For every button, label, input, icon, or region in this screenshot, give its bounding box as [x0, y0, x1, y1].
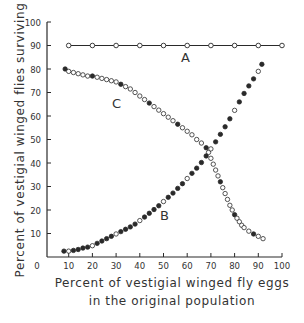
data-point [90, 74, 94, 78]
data-point [230, 208, 234, 212]
data-point [213, 140, 217, 144]
x-tick-label: 20 [87, 260, 98, 271]
data-point [180, 126, 184, 130]
data-point [119, 82, 123, 86]
y-tick-label: 100 [25, 17, 41, 28]
data-point [152, 207, 156, 211]
data-point [180, 181, 184, 185]
data-point [104, 236, 108, 240]
data-point [90, 43, 95, 48]
data-point [71, 70, 75, 74]
data-point [138, 43, 143, 48]
y-tick-label: 40 [30, 158, 41, 169]
data-point [228, 203, 232, 207]
data-point [133, 222, 137, 226]
data-point [81, 73, 85, 77]
data-point [211, 162, 215, 166]
x-tick-label: 50 [158, 260, 169, 271]
y-tick-label: 90 [30, 40, 41, 51]
data-point [166, 195, 170, 199]
data-point [190, 133, 194, 137]
data-point [142, 215, 146, 219]
x-tick-label: 0 [34, 260, 39, 271]
data-point [171, 119, 175, 123]
data-point [199, 141, 203, 145]
data-point [123, 227, 127, 231]
data-point [232, 108, 236, 112]
data-point [204, 154, 208, 158]
data-point [123, 84, 127, 88]
data-point [104, 77, 108, 81]
data-point [216, 174, 220, 178]
data-point [176, 122, 180, 126]
x-tick-label: 100 [274, 260, 290, 271]
data-point [237, 100, 241, 104]
data-point [147, 101, 151, 105]
data-point [247, 229, 251, 233]
data-point [166, 115, 170, 119]
data-point [128, 87, 132, 91]
data-point [218, 180, 222, 184]
data-point [232, 43, 237, 48]
y-tick-label: 60 [30, 111, 41, 122]
x-tick-label: 70 [205, 260, 216, 271]
data-point [251, 232, 255, 236]
data-point [225, 197, 229, 201]
data-point [90, 244, 94, 248]
label-b: B [160, 208, 169, 223]
data-point [256, 43, 261, 48]
data-point [128, 225, 132, 229]
label-a: A [181, 50, 190, 65]
data-point [221, 185, 225, 189]
data-point [223, 191, 227, 195]
series-a [66, 43, 284, 48]
data-point [71, 248, 75, 252]
data-point [147, 211, 151, 215]
data-point [204, 146, 208, 150]
data-point [67, 69, 71, 73]
y-tick-label: 10 [30, 228, 41, 239]
data-point [247, 84, 251, 88]
x-tick-label: 60 [182, 260, 193, 271]
data-point [185, 176, 189, 180]
data-point [256, 234, 260, 238]
data-point [190, 171, 194, 175]
data-point [100, 76, 104, 80]
y-tick-label: 30 [30, 181, 41, 192]
data-point [119, 229, 123, 233]
x-axis-title-line1: Percent of vestigial winged fly eggs [55, 276, 290, 290]
data-point [161, 199, 165, 203]
data-point [114, 232, 118, 236]
y-tick-label: 20 [30, 205, 41, 216]
y-axis-title: Percent of vestigial winged flies surviv… [13, 3, 27, 278]
data-point [199, 160, 203, 164]
data-point [109, 79, 113, 83]
data-point [152, 104, 156, 108]
data-point [209, 156, 213, 160]
data-point [76, 247, 80, 251]
data-point [133, 90, 137, 94]
y-tick-label: 80 [30, 64, 41, 75]
data-point [95, 241, 99, 245]
data-point [95, 75, 99, 79]
data-point [185, 43, 190, 48]
data-point [76, 72, 80, 76]
data-point [138, 94, 142, 98]
data-point [142, 97, 146, 101]
x-tick-label: 90 [253, 260, 264, 271]
data-point [209, 43, 214, 48]
data-point [109, 234, 113, 238]
data-point [242, 225, 246, 229]
data-point [213, 168, 217, 172]
data-point [261, 236, 265, 240]
data-point [62, 249, 66, 253]
data-point [209, 147, 213, 151]
data-point [138, 218, 142, 222]
data-point [242, 91, 246, 95]
data-point [256, 69, 260, 73]
data-point [85, 74, 89, 78]
data-point [81, 246, 85, 250]
x-axis-title-line2: in the original population [89, 294, 255, 308]
x-tick-label: 10 [63, 260, 74, 271]
data-point [251, 77, 255, 81]
